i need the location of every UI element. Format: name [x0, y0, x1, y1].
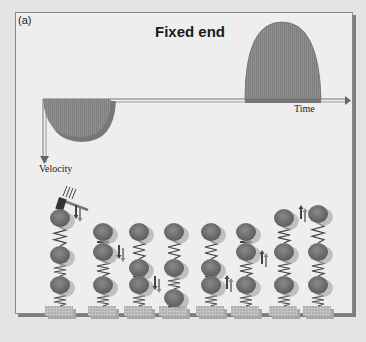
mass-ball: [308, 276, 328, 294]
mass-ball: [129, 259, 149, 277]
mass-ball: [93, 243, 113, 261]
figure-title: Fixed end: [155, 23, 225, 40]
arrow-up-icon: [299, 205, 308, 222]
mass-spring-column: [303, 205, 334, 319]
mass-ball: [50, 209, 70, 227]
mass-spring-column: [159, 223, 190, 319]
panel-label: (a): [18, 14, 31, 26]
hammer-icon: [55, 186, 88, 211]
mass-ball: [164, 289, 184, 307]
mass-ball: [236, 223, 256, 241]
mass-spring-column: [231, 223, 269, 319]
time-axis-label: Time: [294, 103, 315, 114]
mass-ball: [201, 276, 221, 294]
mass-ball: [50, 276, 70, 294]
mass-spring-column: [45, 205, 83, 319]
mass-spring-column: [269, 205, 308, 319]
mass-spring-column: [124, 223, 162, 319]
mass-ball: [129, 276, 149, 294]
velocity-axis-label: Velocity: [39, 163, 72, 174]
arrow-down-icon: [153, 276, 162, 293]
mass-ball: [236, 276, 256, 294]
mass-ball: [164, 259, 184, 277]
mass-spring-column: [196, 223, 234, 319]
mass-ball: [129, 223, 149, 241]
mass-ball: [93, 223, 113, 241]
reflected-pulse: [245, 22, 321, 103]
mass-ball: [236, 243, 256, 261]
mass-ball: [274, 209, 294, 227]
mass-ball: [308, 205, 328, 223]
mass-ball: [93, 276, 113, 294]
mass-ball: [308, 243, 328, 261]
mass-spring-column: [88, 223, 126, 319]
arrow-up-icon: [260, 250, 269, 267]
mass-ball: [274, 276, 294, 294]
mass-ball: [201, 259, 221, 277]
mass-ball: [164, 223, 184, 241]
incident-pulse: [43, 99, 116, 142]
mass-ball: [274, 243, 294, 261]
mass-ball: [201, 223, 221, 241]
mass-ball: [50, 246, 70, 264]
